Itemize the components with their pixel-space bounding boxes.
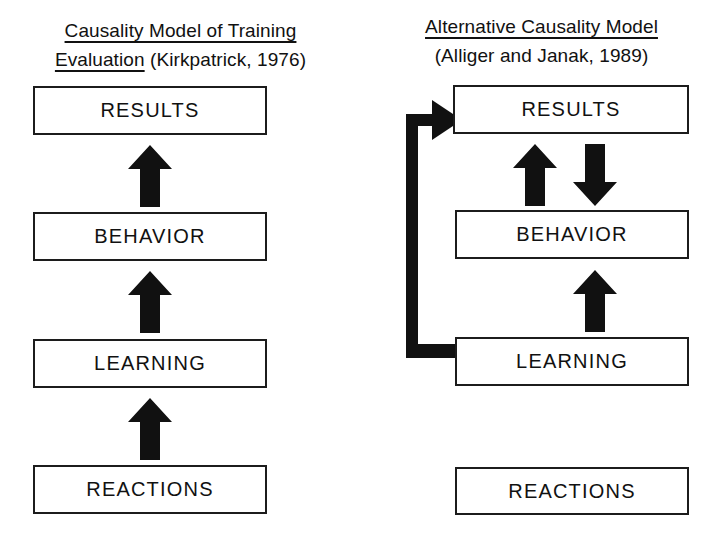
node-left-results[interactable]: RESULTS <box>33 86 267 135</box>
left-model-title: Causality Model of Training Evaluation (… <box>0 16 361 74</box>
node-right-learning-label: LEARNING <box>516 350 628 373</box>
left-title-line-1: Causality Model of Training <box>0 16 361 45</box>
node-left-reactions-label: REACTIONS <box>86 478 213 501</box>
causality-model-right: Alternative Causality Model (Alliger and… <box>361 0 722 536</box>
arrow-right-behavior-to-results <box>513 144 557 206</box>
causality-model-left: Causality Model of Training Evaluation (… <box>0 0 361 536</box>
left-title-line-2-underlined: Evaluation <box>55 49 145 70</box>
node-right-results[interactable]: RESULTS <box>453 85 689 134</box>
left-title-line-2: Evaluation (Kirkpatrick, 1976) <box>0 45 361 74</box>
right-title-citation: (Alliger and Janak, 1989) <box>361 41 722 70</box>
node-right-behavior-label: BEHAVIOR <box>516 223 627 246</box>
arrow-right-learning-to-results-feedback <box>349 92 469 367</box>
arrow-left-reactions-to-learning <box>128 398 172 460</box>
node-right-reactions[interactable]: REACTIONS <box>455 467 689 515</box>
node-right-learning[interactable]: LEARNING <box>455 337 689 386</box>
node-right-reactions-label: REACTIONS <box>508 480 635 503</box>
node-left-learning-label: LEARNING <box>94 352 206 375</box>
node-left-behavior-label: BEHAVIOR <box>94 225 205 248</box>
arrow-left-learning-to-behavior <box>128 271 172 333</box>
arrow-left-behavior-to-results <box>128 145 172 207</box>
node-right-behavior[interactable]: BEHAVIOR <box>455 210 689 259</box>
right-title-line-1: Alternative Causality Model <box>361 12 722 41</box>
diagram-canvas: Causality Model of Training Evaluation (… <box>0 0 722 536</box>
left-title-citation: (Kirkpatrick, 1976) <box>145 49 306 70</box>
right-model-title: Alternative Causality Model (Alliger and… <box>361 12 722 70</box>
node-left-learning[interactable]: LEARNING <box>33 339 267 388</box>
arrow-right-results-to-behavior <box>573 144 617 206</box>
node-left-reactions[interactable]: REACTIONS <box>33 465 267 514</box>
node-left-behavior[interactable]: BEHAVIOR <box>33 212 267 261</box>
node-right-results-label: RESULTS <box>521 98 620 121</box>
node-left-results-label: RESULTS <box>100 99 199 122</box>
arrow-right-learning-to-behavior <box>573 270 617 332</box>
